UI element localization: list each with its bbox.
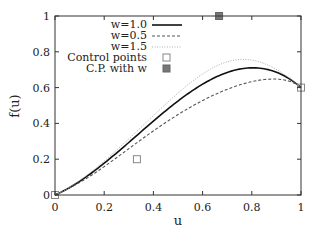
legend-open-square-icon	[163, 54, 170, 61]
x-tick-label: 0.6	[194, 201, 212, 214]
markers-layer	[52, 13, 305, 199]
x-tick-label: 0.8	[243, 201, 261, 214]
curve-w05	[55, 79, 301, 195]
y-tick-label: 0	[43, 189, 50, 202]
y-tick-label: 1	[43, 10, 50, 23]
x-tick-label: 0.4	[145, 201, 163, 214]
x-tick-label: 0.2	[95, 201, 113, 214]
legend-label-cp-with-w: C.P. with w	[86, 62, 148, 75]
y-tick-label: 0.8	[33, 46, 51, 59]
control-point-marker	[133, 156, 140, 163]
y-axis-ticks: 00.20.40.60.81	[33, 10, 302, 202]
curves-layer	[55, 59, 301, 195]
legend: w=1.0 w=0.5 w=1.5 Control points C.P. wi…	[67, 18, 182, 75]
x-tick-label: 1	[298, 201, 305, 214]
x-tick-label: 0	[52, 201, 59, 214]
legend-filled-square-icon	[163, 65, 170, 72]
y-tick-label: 0.2	[33, 153, 51, 166]
plot-frame	[55, 16, 301, 195]
y-axis-label: f(u)	[7, 94, 22, 117]
curve-w10	[55, 68, 301, 195]
y-tick-label: 0.6	[33, 82, 51, 95]
y-tick-label: 0.4	[33, 117, 51, 130]
x-axis-label: u	[174, 213, 182, 228]
chart: 00.20.40.60.81 00.20.40.60.81 u f(u) w=1…	[0, 0, 319, 237]
